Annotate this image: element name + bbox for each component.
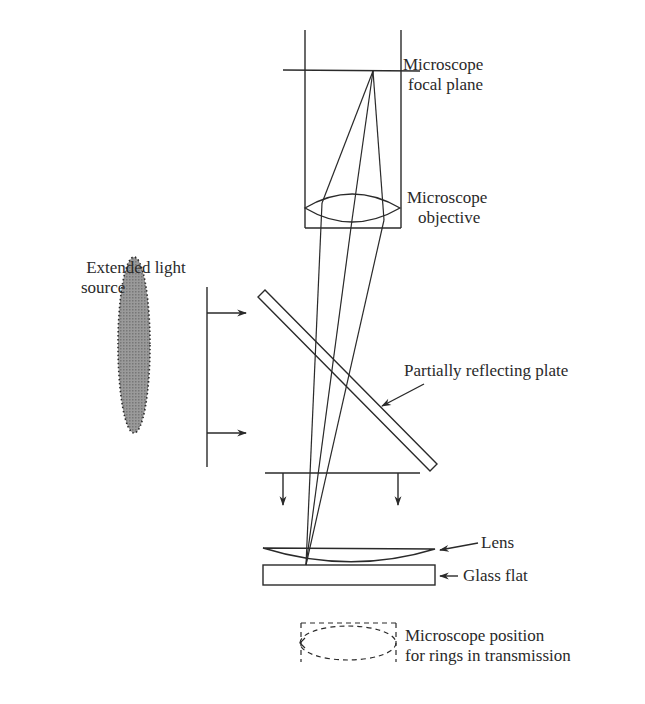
transmission-microscope-position (300, 623, 396, 662)
label-objective: Microscope objective (407, 188, 487, 228)
label-focal-plane-line2: focal plane (403, 75, 483, 95)
focal-plane-line (283, 70, 420, 71)
label-transmission-line2: for rings in transmission (405, 646, 571, 666)
label-transmission: Microscope position for rings in transmi… (405, 626, 571, 666)
lens-pointer-arrow (440, 543, 478, 550)
plano-convex-lens (263, 548, 435, 562)
label-objective-line1: Microscope (407, 188, 487, 208)
label-light-source-line2: source (80, 278, 192, 298)
light-rays (306, 71, 384, 565)
microscope-tube (305, 30, 401, 228)
label-focal-plane: Microscope focal plane (403, 55, 483, 95)
plate-pointer-arrow (382, 384, 424, 406)
label-light-source-line1: Extended light (80, 258, 192, 278)
label-glass-flat: Glass flat (463, 566, 528, 586)
label-lens: Lens (481, 533, 514, 553)
label-transmission-line1: Microscope position (405, 626, 571, 646)
newtons-rings-diagram (0, 0, 645, 704)
label-plate: Partially reflecting plate (404, 361, 568, 381)
label-objective-line2: objective (407, 208, 487, 228)
glass-flat (263, 565, 435, 585)
label-focal-plane-line1: Microscope (403, 55, 483, 75)
label-light-source: Extended light source (80, 258, 192, 298)
